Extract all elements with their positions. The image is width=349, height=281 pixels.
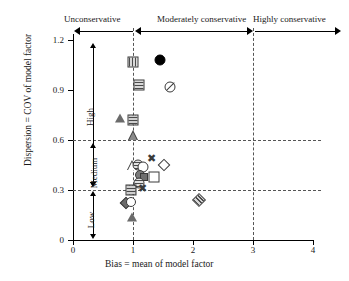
band-label-medium: Medium [89, 158, 99, 189]
x-tick-label-2: 2 [183, 245, 203, 255]
chart-figure: Unconservative Moderately conservative H… [0, 0, 349, 281]
band-label-high: High [85, 108, 95, 126]
gridline-y-06 [73, 140, 321, 141]
arrow-moderately-conservative [135, 27, 253, 37]
y-tick-label-12: 1.2 [38, 35, 64, 45]
arrow-highly-conservative [255, 27, 341, 37]
data-point-diamond-open [158, 159, 171, 172]
y-tick-label-09: 0.9 [38, 85, 64, 95]
data-point-square-open [149, 171, 160, 182]
data-point-circle-open-b [126, 197, 136, 207]
x-tick-label-4: 4 [303, 245, 323, 255]
band-cap-low-top [90, 191, 96, 196]
data-point-x-cross-a: ✖ [147, 153, 156, 164]
arrow-unconservative [74, 27, 133, 37]
y-tick-09 [68, 90, 73, 91]
band-cap-medium-top [90, 143, 96, 148]
y-tick-label-03: 0.3 [38, 185, 64, 195]
band-label-low: Low [86, 212, 96, 229]
data-point-diamond-hatched [192, 193, 206, 207]
y-axis [73, 34, 74, 241]
region-label-unconservative: Unconservative [64, 14, 120, 24]
slash-line [166, 83, 174, 91]
region-label-moderately-conservative: Moderately conservative [157, 14, 246, 24]
data-point-square-hatch-horizontal [134, 80, 145, 91]
y-tick-label-06: 0.6 [38, 135, 64, 145]
data-point-circle-filled [155, 55, 166, 66]
gridline-y-03 [73, 190, 321, 191]
y-axis-label: Dispersion = COV of model factor [23, 20, 33, 180]
band-cap-high-top [90, 43, 96, 48]
data-point-x-cross-b: ✖ [138, 183, 147, 194]
y-tick-12 [68, 40, 73, 41]
data-point-square-hatch-vertical [128, 56, 139, 67]
data-point-square-grid-hatch [128, 115, 139, 126]
data-point-square-grid-hatch-b [126, 185, 137, 196]
x-tick-label-3: 3 [243, 245, 263, 255]
y-tick-label-0: 0 [38, 235, 64, 245]
region-label-highly-conservative: Highly conservative [253, 14, 326, 24]
gridline-x-3 [253, 28, 254, 240]
data-point-circle-slashed [165, 81, 176, 92]
x-axis-label: Bias = mean of model factor [105, 259, 214, 269]
x-tick-label-1: 1 [123, 245, 143, 255]
data-point-triangle-hatched [128, 130, 138, 140]
x-tick-label-0: 0 [63, 245, 83, 255]
data-point-triangle-filled-b [127, 212, 137, 221]
band-cap-low-bottom [90, 234, 96, 239]
data-point-triangle-filled [115, 114, 125, 123]
